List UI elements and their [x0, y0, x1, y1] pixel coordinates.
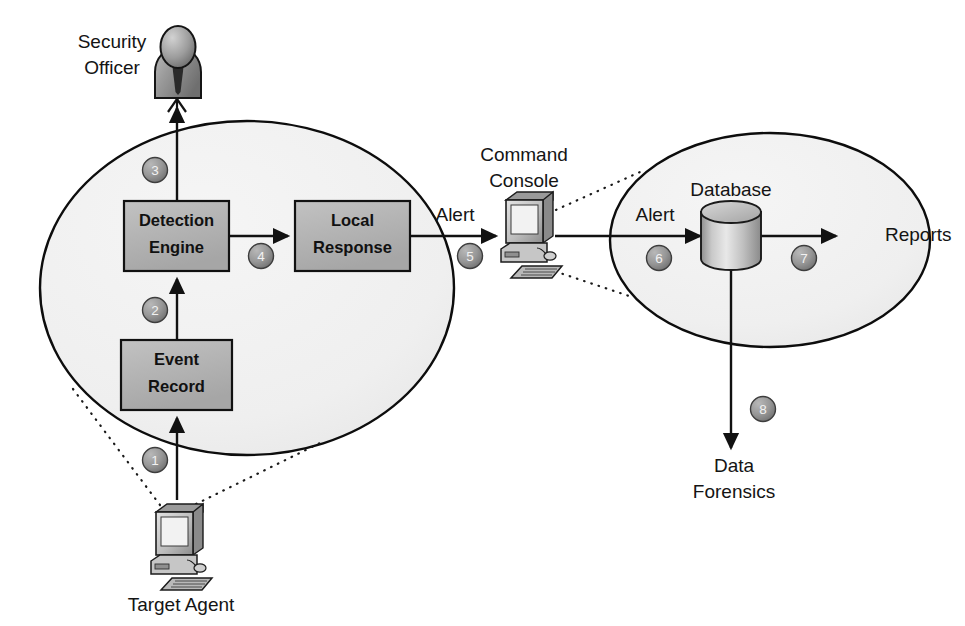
data-forensics-label-line2: Forensics: [693, 481, 775, 502]
step-4-number: 4: [257, 249, 265, 264]
desktop-computer-icon-console[interactable]: [501, 192, 562, 278]
box-event-record[interactable]: Event Record: [121, 340, 232, 410]
ids-architecture-diagram: Detection Engine Local Response Event Re…: [0, 0, 965, 626]
step-1-number: 1: [151, 453, 159, 468]
step-badge-1: 1: [143, 448, 168, 473]
step-badge-2: 2: [143, 298, 168, 323]
security-officer-label-line1: Security: [78, 31, 147, 52]
event-record-label-line1: Event: [154, 350, 199, 368]
data-forensics-label-line1: Data: [714, 455, 755, 476]
target-agent-zone: [40, 121, 454, 455]
local-response-label-line2: Response: [313, 238, 392, 256]
step-7-number: 7: [800, 251, 808, 266]
step-6-number: 6: [655, 251, 663, 266]
command-console-zone: [610, 133, 930, 347]
command-console-label-line1: Command: [480, 144, 568, 165]
step-2-number: 2: [151, 303, 159, 318]
box-local-response[interactable]: Local Response: [295, 201, 410, 271]
step-badge-3: 3: [143, 158, 168, 183]
target-agent-label: Target Agent: [128, 594, 235, 615]
detection-engine-label-line2: Engine: [149, 238, 204, 256]
step-badge-5: 5: [458, 244, 483, 269]
step-badge-8: 8: [751, 397, 776, 422]
local-response-label-line1: Local: [331, 211, 374, 229]
event-record-label-line2: Record: [148, 377, 205, 395]
step-badge-4: 4: [249, 244, 274, 269]
security-officer-label-line2: Officer: [84, 57, 140, 78]
database-cylinder-icon[interactable]: [701, 201, 761, 270]
step-5-number: 5: [466, 249, 474, 264]
alert-label-left: Alert: [435, 204, 475, 225]
person-icon[interactable]: [155, 26, 201, 112]
step-badge-6: 6: [647, 246, 672, 271]
command-console-label-line2: Console: [489, 170, 559, 191]
database-label: Database: [690, 179, 771, 200]
detection-engine-label-line1: Detection: [139, 211, 214, 229]
box-detection-engine[interactable]: Detection Engine: [124, 201, 229, 271]
reports-label: Reports: [885, 224, 952, 245]
step-badge-7: 7: [792, 246, 817, 271]
diagram-canvas: Detection Engine Local Response Event Re…: [0, 0, 965, 626]
step-3-number: 3: [151, 163, 159, 178]
step-8-number: 8: [759, 402, 767, 417]
alert-label-right: Alert: [635, 204, 675, 225]
desktop-computer-icon-target[interactable]: [151, 504, 212, 590]
